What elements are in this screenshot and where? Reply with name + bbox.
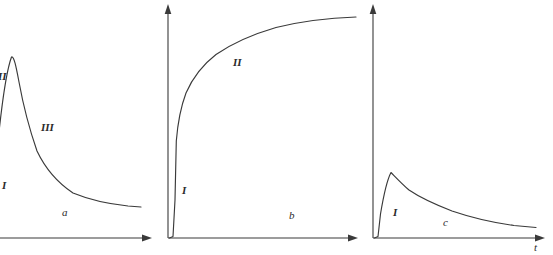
figure-container: II III I a II I b I c t — [0, 0, 553, 255]
panel-a-label-III: III — [40, 121, 55, 133]
panel-c-letter: c — [443, 216, 448, 228]
panel-b-label-II: II — [232, 56, 242, 68]
panel-a-label-I: I — [1, 179, 7, 191]
panel-a-letter: a — [62, 206, 68, 218]
panel-b: II I b — [165, 4, 358, 241]
panel-b-letter: b — [289, 209, 295, 221]
panel-c-curve — [375, 173, 537, 239]
panel-b-x-axis-arrowhead — [348, 235, 358, 242]
panel-b-y-axis-arrowhead — [165, 4, 172, 14]
panel-b-curve — [170, 17, 357, 238]
panel-a-curve — [0, 57, 141, 236]
three-panel-curve-figure: II III I a II I b I c t — [0, 0, 553, 255]
panel-c-y-axis-arrowhead — [370, 4, 377, 14]
panel-c-label-I: I — [392, 206, 398, 218]
panel-a-x-axis-arrowhead — [142, 235, 152, 242]
panel-c: I c t — [370, 4, 545, 253]
panel-a-label-II: II — [0, 70, 7, 82]
time-axis-label: t — [534, 241, 538, 253]
panel-b-label-I: I — [181, 184, 187, 196]
panel-a: II III I a — [0, 57, 152, 241]
